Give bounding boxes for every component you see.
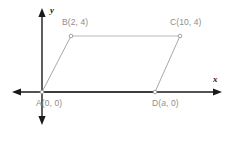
vertex-marker-C — [178, 34, 182, 38]
vertex-marker-B — [69, 34, 73, 38]
x-axis-arrow-right — [213, 88, 222, 95]
geometry-figure: B(2, 4) C(10, 4) A(0, 0) D(a, 0) x y — [0, 0, 243, 142]
vertex-label-D: D(a, 0) — [152, 99, 179, 108]
edge-CD — [155, 36, 180, 92]
vertex-marker-A — [40, 90, 44, 94]
x-axis-label: x — [213, 75, 218, 84]
y-axis-arrow-down — [38, 116, 45, 125]
parallelogram-edges — [42, 36, 180, 92]
y-axis-arrow-up — [38, 8, 45, 17]
vertex-label-D-suffix: , 0) — [166, 98, 179, 108]
vertex-label-D-prefix: D( — [152, 98, 161, 108]
vertex-label-C: C(10, 4) — [170, 18, 202, 27]
y-axis-label: y — [50, 6, 54, 15]
vertex-marker-D — [153, 90, 157, 94]
edge-AB — [42, 36, 71, 92]
vertex-label-B: B(2, 4) — [62, 18, 88, 27]
figure-canvas — [0, 0, 243, 142]
x-axis-arrow-left — [12, 88, 21, 95]
vertex-label-A: A(0, 0) — [36, 99, 62, 108]
vertex-markers — [40, 34, 182, 94]
